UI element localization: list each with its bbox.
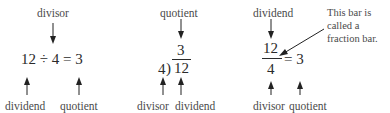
- equals-result: = 3: [284, 52, 304, 67]
- arrow-dividend-down: [268, 19, 274, 39]
- label-divisor: divisor: [137, 101, 169, 113]
- callout-line-1: This bar is: [327, 7, 371, 19]
- callout-line-2: called a: [327, 20, 359, 32]
- dividend-value: 12: [172, 59, 191, 76]
- label-dividend: dividend: [5, 101, 45, 113]
- label-dividend: dividend: [175, 101, 215, 113]
- arrow-fraction-quotient-up: [297, 81, 303, 95]
- arrow-divisor-down: [50, 23, 56, 44]
- numerator-value: 12: [263, 41, 278, 56]
- denominator-value: 4: [267, 62, 275, 77]
- arrow-fraction-divisor-up: [268, 81, 274, 95]
- equation-inline: 12 ÷ 4 = 3: [21, 52, 83, 67]
- label-quotient: quotient: [289, 101, 327, 113]
- label-divisor: divisor: [37, 8, 69, 20]
- label-quotient: quotient: [160, 8, 198, 20]
- quotient-value: 3: [177, 43, 185, 58]
- label-quotient: quotient: [60, 101, 98, 113]
- fraction-bar: [262, 58, 282, 59]
- arrow-quotient-up: [76, 77, 82, 95]
- callout-line-3: fraction bar.: [327, 33, 378, 45]
- arrow-quotient-down: [178, 19, 184, 39]
- divisor-value: 4: [158, 62, 166, 77]
- label-divisor: divisor: [253, 101, 285, 113]
- arrow-dividend-up: [178, 77, 184, 95]
- division-bracket: ): [166, 61, 171, 76]
- arrow-divisor-up: [160, 77, 166, 95]
- arrow-dividend-up: [24, 77, 30, 95]
- label-dividend: dividend: [253, 8, 293, 20]
